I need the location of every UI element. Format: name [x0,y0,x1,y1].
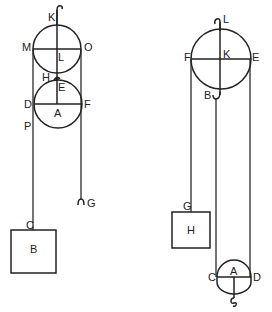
label-right-C: C [208,271,216,283]
label-right-D: D [253,271,261,283]
label-right-E: E [252,51,259,63]
pulley-diagram-figure: K M O L H E D F A P G C B [0,0,272,312]
label-right-G: G [183,200,192,212]
label-left-B: B [30,243,37,255]
label-left-O: O [84,41,93,53]
right-bottom-pulley-hook-icon [231,298,236,306]
right-top-pulley [191,29,251,89]
left-pulley-system: K M O L H E D F A P G C B [11,6,96,273]
label-left-H: H [42,71,50,83]
label-left-A: A [54,107,62,119]
label-left-E: E [58,81,65,93]
right-pulley-system: L F K E B G H C A D [172,13,261,306]
label-left-D: D [24,98,32,110]
label-left-C: C [26,219,34,231]
label-right-L: L [223,13,229,25]
right-bottom-hook-icon [213,92,220,99]
label-right-B: B [204,89,211,101]
label-left-M: M [22,41,31,53]
label-left-G: G [87,197,96,209]
label-left-K: K [48,11,56,23]
label-right-H: H [187,224,195,236]
label-right-A: A [230,265,238,277]
label-right-K: K [223,48,231,60]
label-right-F: F [184,51,191,63]
label-left-P: P [24,120,31,132]
label-left-L: L [58,51,64,63]
label-left-F: F [84,98,91,110]
left-top-hook-icon [57,6,62,25]
